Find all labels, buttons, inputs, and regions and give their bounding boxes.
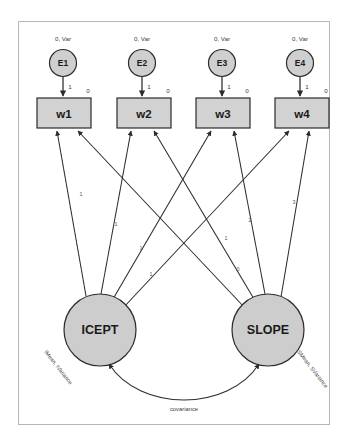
- error-label-e4: E4: [295, 58, 306, 68]
- loading-e1-w1: 1: [68, 83, 72, 90]
- observed-nodes: w1 w2 w3 w4: [37, 98, 329, 128]
- edge-covariance: [109, 364, 259, 400]
- covariance-label: covariance: [170, 406, 198, 412]
- loading-slope-w2: 1: [225, 235, 228, 241]
- loading-icept-w1: 1: [80, 191, 83, 197]
- observed-label-w2: w2: [135, 108, 151, 120]
- observed-intercept-labels: 0 0 0 0: [86, 87, 328, 94]
- path-diagram-canvas: E1 E2 E3 E4 0, Var 0, Var 0, Var 0, Var …: [0, 0, 363, 442]
- loading-icept-w2: 1: [115, 221, 118, 227]
- loading-icept-w4: 1: [150, 271, 153, 277]
- intercept-w3: 0: [245, 87, 249, 94]
- factor-label-icept: ICEPT: [82, 323, 119, 337]
- icept-loading-labels: 1 1 1 1: [80, 191, 153, 277]
- slope-loading-edges: [78, 131, 309, 308]
- intercept-w2: 0: [166, 87, 170, 94]
- error-loading-labels: 1 1 1 1: [68, 83, 309, 90]
- intercept-w1: 0: [86, 87, 90, 94]
- factor-nodes: ICEPT SLOPE: [64, 294, 304, 366]
- loading-e3-w3: 1: [227, 83, 231, 90]
- error-variance-annotations: 0, Var 0, Var 0, Var 0, Var: [55, 35, 308, 42]
- loading-slope-w3: 2: [249, 217, 252, 223]
- error-label-e3: E3: [217, 58, 228, 68]
- slope-loading-labels: 0 1 2 3: [225, 199, 296, 272]
- annotation-slope-mean-variance: SMean, SVariance: [296, 349, 329, 389]
- annotation-e3-var: 0, Var: [214, 35, 230, 42]
- factor-label-slope: SLOPE: [247, 323, 289, 337]
- loading-e4-w4: 1: [305, 83, 309, 90]
- annotation-e4-var: 0, Var: [292, 35, 308, 42]
- loading-slope-w4: 3: [293, 199, 296, 205]
- edge-icept-w4: [123, 131, 289, 308]
- edge-icept-w2: [101, 131, 131, 294]
- error-nodes: E1 E2 E3 E4: [50, 50, 314, 77]
- edge-icept-w1: [57, 131, 86, 296]
- error-label-e1: E1: [58, 58, 69, 68]
- edge-slope-w4: [281, 131, 309, 297]
- loading-e2-w2: 1: [147, 83, 151, 90]
- annotation-icept-mean-variance: IMean, IVariance: [43, 349, 74, 386]
- error-to-observed-edges: [63, 76, 300, 96]
- annotation-e1-var: 0, Var: [55, 35, 71, 42]
- error-label-e2: E2: [137, 58, 148, 68]
- observed-label-w3: w3: [214, 108, 230, 120]
- edge-icept-w3: [113, 131, 211, 299]
- annotation-e2-var: 0, Var: [134, 35, 150, 42]
- icept-loading-edges: [57, 131, 289, 308]
- loading-slope-w1: 0: [237, 266, 240, 272]
- loading-icept-w3: 1: [140, 245, 143, 251]
- path-diagram-svg: E1 E2 E3 E4 0, Var 0, Var 0, Var 0, Var …: [0, 0, 363, 442]
- observed-label-w1: w1: [55, 108, 72, 120]
- intercept-w4: 0: [324, 87, 328, 94]
- observed-label-w4: w4: [293, 108, 310, 120]
